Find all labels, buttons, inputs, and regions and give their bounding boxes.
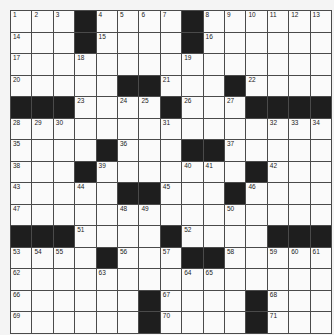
grid-cell[interactable]	[32, 140, 52, 161]
grid-cell[interactable]	[225, 54, 245, 75]
grid-cell[interactable]	[75, 291, 95, 312]
grid-cell[interactable]	[161, 54, 181, 75]
grid-cell[interactable]	[225, 269, 245, 290]
grid-cell[interactable]	[289, 312, 309, 333]
grid-cell[interactable]: 60	[289, 248, 309, 269]
grid-cell[interactable]	[75, 312, 95, 333]
grid-cell[interactable]	[97, 205, 117, 226]
grid-cell[interactable]: 51	[75, 226, 95, 247]
grid-cell[interactable]	[268, 76, 288, 97]
grid-cell[interactable]: 47	[11, 205, 31, 226]
grid-cell[interactable]: 36	[118, 140, 138, 161]
grid-cell[interactable]	[54, 54, 74, 75]
grid-cell[interactable]	[225, 33, 245, 54]
grid-cell[interactable]: 3	[54, 11, 74, 32]
grid-cell[interactable]	[118, 269, 138, 290]
grid-cell[interactable]	[54, 205, 74, 226]
grid-cell[interactable]	[32, 76, 52, 97]
grid-cell[interactable]	[54, 183, 74, 204]
grid-cell[interactable]	[97, 97, 117, 118]
grid-cell[interactable]: 16	[204, 33, 224, 54]
grid-cell[interactable]: 32	[268, 119, 288, 140]
grid-cell[interactable]	[139, 54, 159, 75]
grid-cell[interactable]	[289, 33, 309, 54]
grid-cell[interactable]	[75, 76, 95, 97]
grid-cell[interactable]: 9	[225, 11, 245, 32]
grid-cell[interactable]	[97, 119, 117, 140]
grid-cell[interactable]	[204, 76, 224, 97]
grid-cell[interactable]: 1	[11, 11, 31, 32]
grid-cell[interactable]: 59	[268, 248, 288, 269]
grid-cell[interactable]	[204, 97, 224, 118]
grid-cell[interactable]: 31	[161, 119, 181, 140]
grid-cell[interactable]: 30	[54, 119, 74, 140]
grid-cell[interactable]	[289, 76, 309, 97]
grid-cell[interactable]	[311, 162, 331, 183]
grid-cell[interactable]	[118, 312, 138, 333]
grid-cell[interactable]: 50	[225, 205, 245, 226]
grid-cell[interactable]	[246, 205, 266, 226]
grid-cell[interactable]: 67	[161, 291, 181, 312]
grid-cell[interactable]	[54, 76, 74, 97]
grid-cell[interactable]: 52	[182, 226, 202, 247]
grid-cell[interactable]	[246, 269, 266, 290]
grid-cell[interactable]: 53	[11, 248, 31, 269]
grid-cell[interactable]	[246, 54, 266, 75]
grid-cell[interactable]: 35	[11, 140, 31, 161]
grid-cell[interactable]	[97, 291, 117, 312]
grid-cell[interactable]	[161, 162, 181, 183]
grid-cell[interactable]: 66	[11, 291, 31, 312]
grid-cell[interactable]	[182, 119, 202, 140]
grid-cell[interactable]	[75, 269, 95, 290]
grid-cell[interactable]	[204, 291, 224, 312]
grid-cell[interactable]	[225, 291, 245, 312]
grid-cell[interactable]	[311, 140, 331, 161]
grid-cell[interactable]	[204, 183, 224, 204]
grid-cell[interactable]: 8	[204, 11, 224, 32]
grid-cell[interactable]: 20	[11, 76, 31, 97]
grid-cell[interactable]: 46	[246, 183, 266, 204]
grid-cell[interactable]	[246, 248, 266, 269]
grid-cell[interactable]	[32, 312, 52, 333]
grid-cell[interactable]: 62	[11, 269, 31, 290]
grid-cell[interactable]	[311, 183, 331, 204]
grid-cell[interactable]	[32, 291, 52, 312]
grid-cell[interactable]	[268, 33, 288, 54]
grid-cell[interactable]	[161, 269, 181, 290]
grid-cell[interactable]: 43	[11, 183, 31, 204]
grid-cell[interactable]: 37	[225, 140, 245, 161]
grid-cell[interactable]	[75, 205, 95, 226]
grid-cell[interactable]: 34	[311, 119, 331, 140]
grid-cell[interactable]: 57	[161, 248, 181, 269]
grid-cell[interactable]: 68	[268, 291, 288, 312]
grid-cell[interactable]	[182, 76, 202, 97]
grid-cell[interactable]	[118, 54, 138, 75]
grid-cell[interactable]	[75, 140, 95, 161]
grid-cell[interactable]: 23	[75, 97, 95, 118]
grid-cell[interactable]	[97, 312, 117, 333]
grid-cell[interactable]: 19	[182, 54, 202, 75]
grid-cell[interactable]	[139, 162, 159, 183]
grid-cell[interactable]	[139, 119, 159, 140]
grid-cell[interactable]	[118, 119, 138, 140]
grid-cell[interactable]	[289, 205, 309, 226]
grid-cell[interactable]: 56	[118, 248, 138, 269]
grid-cell[interactable]: 5	[118, 11, 138, 32]
grid-cell[interactable]: 12	[289, 11, 309, 32]
grid-cell[interactable]	[246, 119, 266, 140]
grid-cell[interactable]	[118, 33, 138, 54]
grid-cell[interactable]	[54, 162, 74, 183]
grid-cell[interactable]	[54, 140, 74, 161]
grid-cell[interactable]: 13	[311, 11, 331, 32]
grid-cell[interactable]: 48	[118, 205, 138, 226]
grid-cell[interactable]: 11	[268, 11, 288, 32]
grid-cell[interactable]	[204, 54, 224, 75]
grid-cell[interactable]	[289, 54, 309, 75]
grid-cell[interactable]	[268, 205, 288, 226]
grid-cell[interactable]	[311, 33, 331, 54]
grid-cell[interactable]: 10	[246, 11, 266, 32]
grid-cell[interactable]	[139, 248, 159, 269]
grid-cell[interactable]	[289, 162, 309, 183]
grid-cell[interactable]: 64	[182, 269, 202, 290]
grid-cell[interactable]	[182, 183, 202, 204]
